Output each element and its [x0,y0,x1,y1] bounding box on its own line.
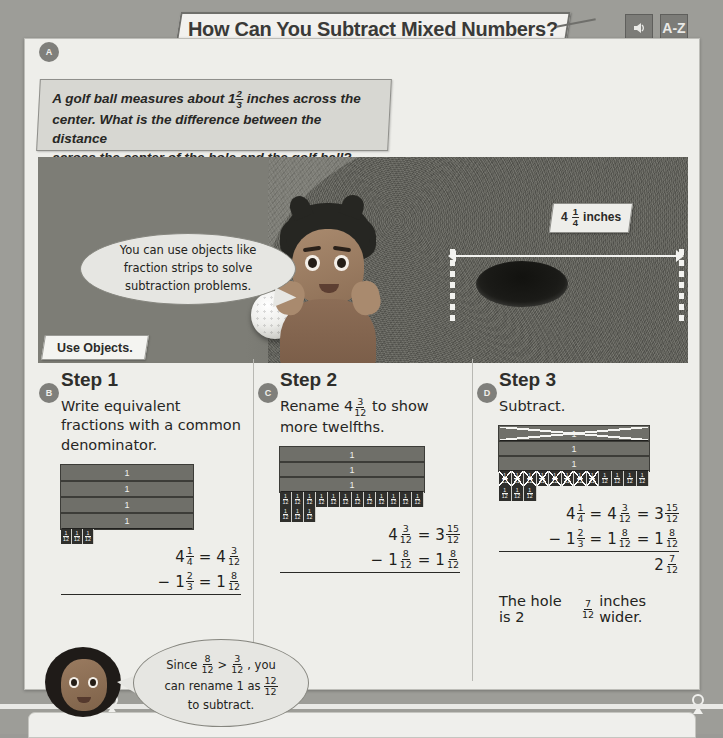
whole-strip: 1 [499,426,649,441]
lesson-card: A A golf ball measures about 123 inches … [24,38,700,690]
step-1-description: Write equivalent fractions with a common… [61,397,241,455]
equation-left: 414 [175,546,194,567]
fraction: 312 [618,503,632,524]
result-value: 2712 [654,554,679,575]
twelfth-strip: 112 [328,492,340,507]
golf-hole-photo: 4 1 4 inches [38,157,688,363]
step-3-answer: The hole is 2712 inches wider. [499,593,679,625]
girl-character [45,647,121,723]
step-3-title: Step 3 [499,369,679,391]
fraction: 14 [577,503,585,524]
twelfth-strip: 112 [72,529,83,544]
twelfth-strip: 112 [376,492,388,507]
twelfths-row: 112112112112112112112112112112112112 [280,492,460,507]
hole-measurement-label: 4 1 4 inches [549,203,633,233]
step-2-fraction-strips: 1111121121121121121121121121121121121121… [280,447,460,522]
twelfth-strip: 112 [388,492,400,507]
bubble-top-line2: fraction strips to solve [124,260,253,278]
bubble-bottom-gt: > [218,658,228,672]
badge-a: A [39,42,59,62]
operator: − [158,573,171,591]
equals: = [199,548,212,566]
twelfth-strip: 112 [562,471,575,486]
step-1-fraction-strips: 1111112112112 [61,465,241,544]
fraction: 712 [665,554,679,575]
equation-left: 4312 [388,524,413,545]
whole-strip: 1 [61,497,193,513]
measure-unit: inches [583,210,621,224]
problem-line2: center. What is the difference between t… [52,112,321,146]
whole-strip: 1 [61,513,193,529]
bubble-bottom-fraction-b: 312 [230,654,244,675]
problem-fraction: 23 [236,89,243,110]
bubble-bottom-fraction-a: 812 [200,654,214,675]
equation-row: −123=1812 [61,569,241,595]
whole-strip: 1 [61,481,193,497]
equation-left: 414 [566,503,585,524]
twelfth-strip: 112 [499,471,512,486]
step-3-equations: 414=4312=31512−123=1812=18122712 [499,501,679,577]
equation-row: −1812=1812 [280,547,460,573]
equation-row: 4312=31512 [280,522,460,547]
equation-middle: 4312 [607,503,632,524]
twelfth-strip: 112 [524,486,537,501]
equals: = [590,505,603,523]
use-objects-label: Use Objects. [57,341,133,355]
extra-twelfths-row: 112112112 [499,486,679,501]
bubble-top-line1: You can use objects like [120,242,257,260]
twelfth-strip: 112 [280,492,292,507]
extra-twelfths-row: 112112112 [280,507,460,522]
problem-statement: A golf ball measures about 123 inches ac… [36,79,392,151]
problem-line1: A golf ball measures about 1 [52,91,235,106]
equation-right: 1812 [435,549,460,570]
bubble-top-line3: subtraction problems. [125,278,251,296]
twelfth-strip: 112 [340,492,352,507]
bubble-bottom-line2: can rename 1 as 1212 [164,676,277,697]
twelfth-strip: 112 [304,507,316,522]
equation-middle: 1812 [607,528,632,549]
answer-pre: The hole is 2 [499,593,577,625]
lower-panel [28,712,696,738]
equals: = [590,530,603,548]
step-2-desc-pre: Rename 4 [280,398,353,414]
twelfth-strip: 112 [304,492,316,507]
fraction: 312 [399,524,413,545]
measure-whole: 4 [561,210,568,224]
twelfth-strip: 112 [499,486,512,501]
fraction: 1512 [446,524,460,545]
equation-right: 1812 [216,571,241,592]
twelfth-strip: 112 [364,492,376,507]
equation-row: 414=4312 [61,544,241,569]
equation-right: 4312 [216,546,241,567]
step-1-title: Step 1 [61,369,241,391]
equation-left: 123 [175,571,194,592]
badge-b: B [39,383,59,403]
twelfth-strip: 112 [400,492,412,507]
bubble-bottom-since: Since [166,658,197,672]
golf-hole [476,261,568,307]
measure-fraction: 1 4 [572,207,579,228]
badge-c: C [258,383,278,403]
equation-result: 2712 [499,552,679,577]
bubble-bottom-line1: Since 812 > 312 , you [166,654,275,675]
twelfth-strip: 112 [537,471,550,486]
step-2-desc-fraction: 312 [353,397,367,418]
twelfth-strip: 112 [61,529,72,544]
bubble-bottom-you: , you [247,658,275,672]
step-3-description: Subtract. [499,397,679,416]
twelfth-strip: 112 [587,471,600,486]
equals: = [418,551,431,569]
equation-right: 31512 [435,524,460,545]
fraction: 14 [186,546,194,567]
twelfth-strip: 112 [574,471,587,486]
twelfth-strip: 112 [549,471,562,486]
speech-bubble-top-tail [273,288,298,311]
twelfth-strip: 112 [316,492,328,507]
twelfth-strip: 112 [637,471,650,486]
equation-left: 123 [566,528,585,549]
problem-line1-end: inches across the [243,91,361,106]
step-2-description: Rename 4312 to show more twelfths. [280,397,460,437]
fraction: 1512 [665,503,679,524]
use-objects-tab: Use Objects. [41,335,149,360]
